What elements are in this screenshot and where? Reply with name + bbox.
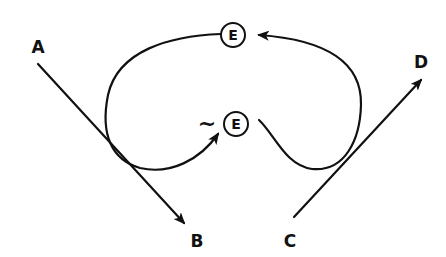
tilde-symbol: ~ <box>198 111 216 136</box>
label-c: C <box>284 231 296 251</box>
node-e-top: E <box>221 23 245 47</box>
diagram-canvas: E E ~ A B C D <box>0 0 446 257</box>
label-b: B <box>191 231 204 251</box>
label-a: A <box>31 37 45 57</box>
loop-right-arrow <box>259 35 361 169</box>
label-d: D <box>414 52 428 72</box>
node-e-mid-label: E <box>231 116 241 132</box>
arrow-c-to-d <box>294 80 421 217</box>
node-e-mid: E ~ <box>198 111 248 136</box>
loop-left-arrow <box>106 34 221 170</box>
node-e-top-label: E <box>228 27 238 43</box>
